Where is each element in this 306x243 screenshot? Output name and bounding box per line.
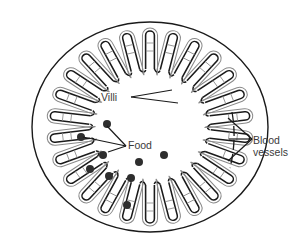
villi-pointer: [131, 97, 178, 103]
intestine-wall: [32, 22, 268, 232]
food-particle: [127, 174, 135, 182]
food-pointer: [108, 146, 126, 152]
blood-vessels-label-line1: Blood: [253, 134, 288, 146]
food-particle: [86, 165, 94, 173]
villi-pointer: [131, 90, 172, 97]
food-label: Food: [128, 139, 152, 151]
food-particle: [105, 172, 113, 180]
intestine-cross-section-diagram: [0, 0, 306, 243]
villi-label: Villi: [101, 91, 117, 103]
food-particle: [123, 201, 131, 209]
food-particle: [135, 158, 143, 166]
outer-wall: [32, 22, 268, 232]
food-particle: [160, 151, 168, 159]
blood-vessels-label: Blood vessels: [253, 134, 288, 158]
villi-ring: [46, 28, 254, 226]
blood-vessels-label-line2: vessels: [253, 146, 288, 158]
food-particle: [99, 151, 107, 159]
